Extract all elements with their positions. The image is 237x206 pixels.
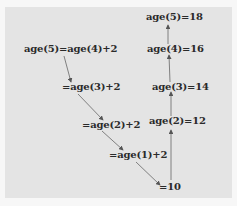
arrow-l4-base [136,162,160,185]
node-age5-expr: age(5)=age(4)+2 [24,43,117,55]
node-age2-expr: =age(2)+2 [82,119,140,131]
node-base-value: =10 [159,181,181,193]
arrow-l2-l3 [78,94,103,120]
node-age3-expr: =age(3)+2 [62,81,120,93]
arrow-l3-l4 [102,131,123,150]
node-age4-result: age(4)=16 [147,43,204,55]
node-age1-expr: =age(1)+2 [109,149,167,161]
node-age5-result: age(5)=18 [146,11,203,23]
arrows-layer [0,0,237,206]
node-age3-result: age(3)=14 [152,81,209,93]
arrow-l1-l2 [64,56,71,82]
arrow-r3-r4 [169,55,170,82]
node-age2-result: age(2)=12 [149,115,206,127]
